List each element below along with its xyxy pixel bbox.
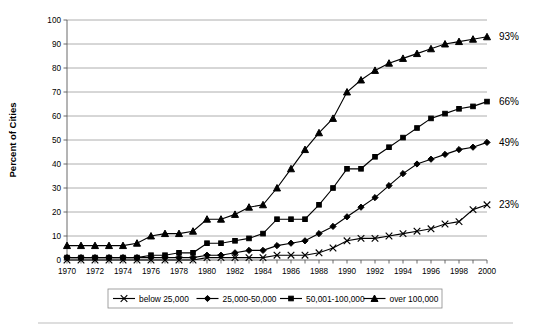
data-marker-square — [471, 104, 476, 109]
x-tick-label: 1982 — [226, 267, 245, 276]
x-tick-label: 1988 — [310, 267, 329, 276]
data-marker-square — [359, 167, 364, 172]
data-marker-square — [485, 99, 490, 104]
data-marker-square — [163, 253, 168, 258]
data-marker-square — [79, 255, 84, 260]
y-tick-label: 70 — [52, 88, 62, 97]
x-tick-label: 1996 — [422, 267, 441, 276]
data-marker-square — [219, 241, 224, 246]
x-ticks-group: 1970197219741976197819801982198419861988… — [58, 260, 497, 276]
x-tick-label: 1992 — [366, 267, 385, 276]
data-marker-square — [429, 116, 434, 121]
data-marker-square — [345, 167, 350, 172]
y-tick-label: 60 — [52, 112, 62, 121]
data-marker-square — [401, 135, 406, 140]
data-marker-diamond — [288, 240, 294, 246]
y-axis-title: Percent of Cities — [7, 103, 18, 178]
x-tick-label: 1990 — [338, 267, 357, 276]
data-marker-triangle — [484, 33, 491, 39]
data-marker-square — [415, 126, 420, 131]
data-marker-square — [191, 251, 196, 256]
data-marker-square — [443, 111, 448, 116]
x-tick-label: 1972 — [86, 267, 105, 276]
data-marker-diamond — [274, 243, 280, 249]
data-marker-triangle — [134, 240, 141, 246]
legend-item-label: below 25,000 — [139, 294, 189, 304]
data-marker-square — [65, 255, 70, 260]
chart-canvas: 0102030405060708090100197019721974197619… — [0, 0, 549, 332]
y-tick-label: 100 — [47, 16, 61, 25]
data-marker-diamond — [428, 156, 434, 162]
y-tick-label: 10 — [52, 232, 62, 241]
data-marker-square — [205, 241, 210, 246]
y-tick-label: 80 — [52, 64, 62, 73]
y-tick-label: 20 — [52, 208, 62, 217]
data-marker-square — [331, 186, 336, 191]
data-marker-square — [149, 253, 154, 258]
data-marker-square — [233, 239, 238, 244]
legend-item-label: 25,000-50,000 — [223, 294, 277, 304]
data-marker-square — [289, 217, 294, 222]
x-tick-label: 1980 — [198, 267, 217, 276]
series-over-100-000 — [64, 33, 491, 248]
data-marker-diamond — [260, 247, 266, 253]
data-marker-diamond — [302, 238, 308, 244]
data-marker-square — [107, 255, 112, 260]
legend: below 25,00025,000-50,00050,001-100,000o… — [108, 289, 442, 308]
legend-item-label: over 100,000 — [390, 294, 439, 304]
chart-figure: 0102030405060708090100197019721974197619… — [0, 0, 549, 332]
x-tick-label: 1976 — [142, 267, 161, 276]
data-marker-square — [135, 255, 140, 260]
data-marker-square — [289, 296, 294, 301]
end-labels-group: 23%49%66%93% — [499, 31, 519, 210]
series-line — [67, 142, 487, 257]
x-tick-label: 1978 — [170, 267, 189, 276]
y-tick-label: 30 — [52, 184, 62, 193]
series-line — [67, 102, 487, 258]
series-25-000-50-000 — [64, 139, 490, 260]
series-line — [67, 205, 487, 260]
data-marker-square — [373, 155, 378, 160]
data-marker-square — [177, 251, 182, 256]
series-end-label: 66% — [499, 96, 519, 107]
x-tick-label: 1986 — [282, 267, 301, 276]
data-marker-square — [247, 236, 252, 241]
y-tick-label: 0 — [56, 256, 61, 265]
data-marker-square — [303, 217, 308, 222]
data-marker-square — [275, 217, 280, 222]
x-tick-label: 1984 — [254, 267, 273, 276]
data-marker-square — [387, 145, 392, 150]
data-marker-square — [121, 255, 126, 260]
data-marker-triangle — [358, 77, 365, 83]
x-tick-label: 1970 — [58, 267, 77, 276]
data-marker-diamond — [246, 247, 252, 253]
gridlines-group: 0102030405060708090100 — [47, 16, 487, 265]
x-tick-label: 2000 — [478, 267, 497, 276]
series-below-25-000 — [64, 202, 491, 264]
data-marker-square — [317, 203, 322, 208]
data-marker-diamond — [470, 144, 476, 150]
x-tick-label: 1974 — [114, 267, 133, 276]
y-tick-label: 50 — [52, 136, 62, 145]
y-tick-label: 90 — [52, 40, 62, 49]
x-tick-label: 1998 — [450, 267, 469, 276]
data-marker-square — [261, 231, 266, 236]
data-marker-square — [93, 255, 98, 260]
data-marker-diamond — [442, 151, 448, 157]
series-end-label: 49% — [499, 137, 519, 148]
series-end-label: 23% — [499, 199, 519, 210]
data-marker-diamond — [456, 147, 462, 153]
x-tick-label: 1994 — [394, 267, 413, 276]
y-tick-label: 40 — [52, 160, 62, 169]
series-end-label: 93% — [499, 31, 519, 42]
legend-item-label: 50,001-100,000 — [306, 294, 365, 304]
data-marker-square — [457, 107, 462, 112]
